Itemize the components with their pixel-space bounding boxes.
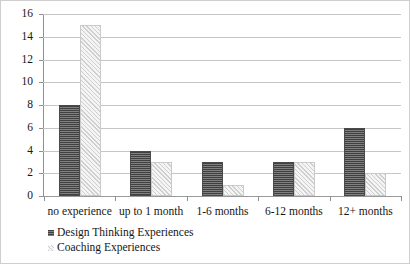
y-axis-tick-mark <box>39 128 43 129</box>
bar[interactable] <box>151 162 172 196</box>
bar-group <box>330 14 401 196</box>
bar-group <box>115 14 186 196</box>
bar-chart-figure: 1614121086420 no experienceup to 1 month… <box>0 0 410 264</box>
y-axis-tick-labels: 1614121086420 <box>1 14 39 196</box>
x-axis-tick-mark <box>330 196 331 201</box>
legend-item[interactable]: Coaching Experiences <box>48 240 193 255</box>
y-axis-tick-label: 14 <box>22 31 34 43</box>
x-axis-category-label: 6-12 months <box>258 196 329 222</box>
x-axis-tick-mark <box>115 196 116 201</box>
y-axis-tick-label: 16 <box>22 8 34 20</box>
x-axis-category-label: up to 1 month <box>115 196 186 222</box>
legend-swatch-icon <box>48 245 54 251</box>
y-axis-tick-mark <box>39 37 43 38</box>
y-axis-tick-mark <box>39 196 43 197</box>
y-axis-tick-label: 12 <box>22 54 34 66</box>
y-axis-tick-mark <box>39 60 43 61</box>
x-axis-category-text: up to 1 month <box>119 205 183 217</box>
y-axis-tick-label: 0 <box>27 190 33 202</box>
x-axis-tick-mark <box>187 196 188 201</box>
bar[interactable] <box>294 162 315 196</box>
y-axis-tick-mark <box>39 173 43 174</box>
y-axis-tick-label: 8 <box>27 99 33 111</box>
x-axis-category-label: 12+ months <box>330 196 401 222</box>
x-axis-category-text: 6-12 months <box>265 205 323 217</box>
x-axis-category-labels: no experienceup to 1 month1-6 months6-12… <box>44 196 401 222</box>
y-axis-tick-label: 4 <box>27 145 33 157</box>
bar[interactable] <box>223 185 244 196</box>
bars-layer <box>44 14 401 196</box>
bar[interactable] <box>80 25 101 196</box>
y-axis-tick-mark <box>39 14 43 15</box>
bar[interactable] <box>130 151 151 197</box>
y-axis-tick-mark <box>39 151 43 152</box>
bar-group <box>258 14 329 196</box>
bar[interactable] <box>365 173 386 196</box>
bar-group <box>187 14 258 196</box>
y-axis-tick-label: 10 <box>22 77 34 89</box>
bar[interactable] <box>273 162 294 196</box>
x-axis-category-text: 12+ months <box>338 205 393 217</box>
legend-swatch-icon <box>48 230 54 236</box>
legend-label: Design Thinking Experiences <box>57 227 193 239</box>
y-axis-tick-mark <box>39 105 43 106</box>
x-axis-category-text: no experience <box>48 205 112 217</box>
bar[interactable] <box>59 105 80 196</box>
plot-area <box>43 14 401 196</box>
bar-group <box>44 14 115 196</box>
chart-legend: Design Thinking ExperiencesCoaching Expe… <box>48 225 193 255</box>
y-axis-tick-label: 6 <box>27 122 33 134</box>
x-axis-category-text: 1-6 months <box>196 205 248 217</box>
x-axis-tick-mark <box>258 196 259 201</box>
legend-item[interactable]: Design Thinking Experiences <box>48 225 193 240</box>
x-axis-tick-mark <box>401 196 402 201</box>
y-axis-tick-label: 2 <box>27 168 33 180</box>
y-axis-tick-mark <box>39 82 43 83</box>
x-axis-category-label: no experience <box>44 196 115 222</box>
bar[interactable] <box>344 128 365 196</box>
x-axis-category-label: 1-6 months <box>187 196 258 222</box>
x-axis-tick-mark <box>44 196 45 201</box>
legend-label: Coaching Experiences <box>57 242 160 254</box>
bar[interactable] <box>202 162 223 196</box>
